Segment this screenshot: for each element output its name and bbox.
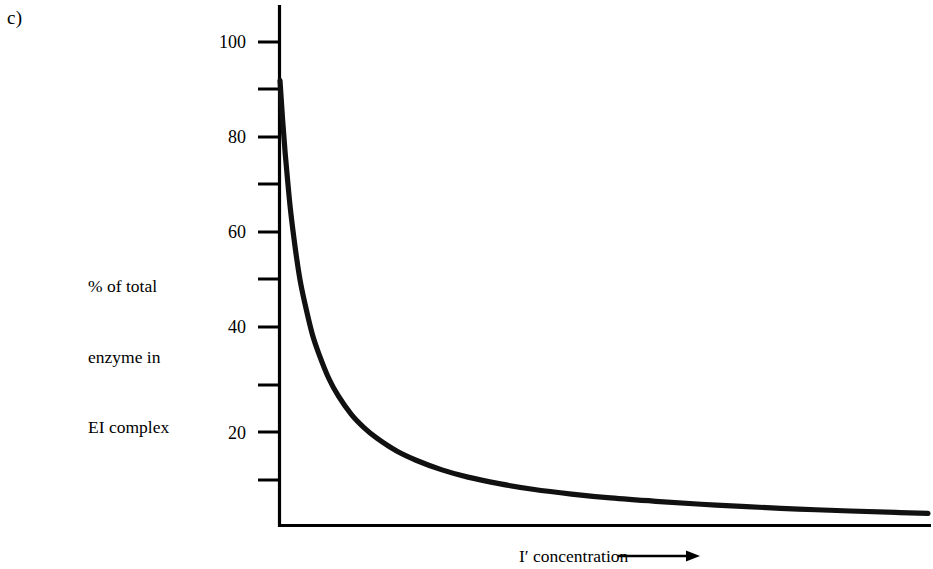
data-curve-ei-complex [280,81,928,514]
figure-panel-c: c) % of total enzyme in EI complex 100 8… [0,0,933,569]
arrow-right-icon [618,551,700,562]
x-axis-title: I′ concentration [519,546,628,566]
y-axis-ticks [258,42,279,480]
plot-area [0,0,933,569]
axes [278,5,931,527]
